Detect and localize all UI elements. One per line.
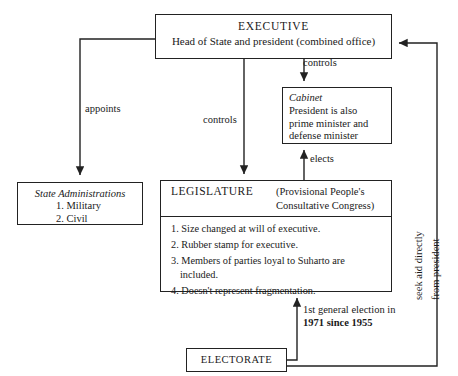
legislature-body: 1. Size changed at will of executive. 2.… — [161, 217, 391, 297]
node-executive: EXECUTIVE Head of State and president (c… — [155, 14, 392, 59]
cabinet-title: Cabinet — [289, 92, 391, 105]
cabinet-line-2: prime minister and — [289, 118, 391, 131]
node-state-administrations: State Administrations 1. Military 2. Civ… — [17, 182, 143, 225]
legislature-item-4: 4. Doesn't represent fragmentation. — [171, 284, 385, 298]
node-cabinet: Cabinet President is also prime minister… — [282, 87, 392, 144]
legislature-title: LEGISLATURE — [171, 185, 253, 197]
node-electorate: ELECTORATE — [186, 348, 287, 372]
executive-subtitle: Head of State and president (combined of… — [156, 35, 391, 47]
edge-label-controls-cabinet: controls — [303, 56, 337, 69]
legislature-item-1: 1. Size changed at will of executive. — [171, 222, 385, 236]
legislature-header: LEGISLATURE (Provisional People's Consul… — [161, 181, 391, 217]
general-election-line-2: 1971 since 1955 — [303, 317, 372, 328]
executive-title: EXECUTIVE — [156, 20, 391, 32]
general-election-line-1: 1st general election in — [303, 304, 395, 315]
legislature-subtitle: (Provisional People's Consultative Congr… — [276, 185, 374, 212]
node-legislature: LEGISLATURE (Provisional People's Consul… — [160, 180, 392, 292]
state-administrations-title: State Administrations — [18, 188, 142, 199]
state-administrations-item-1: 1. Military — [18, 199, 142, 212]
edge-label-general-election: 1st general election in 1971 since 1955 — [303, 303, 395, 329]
edge-label-elects: elects — [310, 152, 334, 165]
legislature-item-3: 3. Members of parties loyal to Suharto a… — [171, 254, 385, 281]
edge-label-controls-legislature: controls — [203, 113, 237, 126]
edge-electorate-to-legislature — [287, 298, 297, 360]
edge-label-seek-aid-directly: seek aid directly — [413, 231, 424, 300]
legislature-item-2: 2. Rubber stamp for executive. — [171, 238, 385, 252]
electorate-title: ELECTORATE — [187, 349, 286, 371]
cabinet-line-3: defense minister — [289, 130, 391, 143]
state-administrations-item-2: 2. Civil — [18, 212, 142, 225]
legislature-subtitle-line-1: (Provisional People's — [276, 186, 365, 197]
edge-label-from-president: from president — [430, 238, 441, 300]
legislature-subtitle-line-2: Consultative Congress) — [276, 200, 374, 211]
diagram-canvas: EXECUTIVE Head of State and president (c… — [0, 0, 458, 376]
cabinet-line-1: President is also — [289, 105, 391, 118]
edge-label-appoints: appoints — [85, 102, 121, 115]
